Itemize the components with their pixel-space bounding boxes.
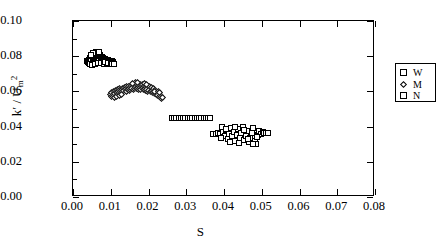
x-axis-title: S: [0, 224, 401, 240]
y-axis-minor-tick: [73, 39, 77, 40]
legend-item-n: N: [400, 90, 434, 101]
legend-label: N: [413, 90, 420, 101]
y-axis-title: k′ / Um2: [9, 41, 25, 151]
legend-marker-diamond: [400, 80, 407, 87]
x-axis-tick-label: 0.08: [351, 200, 397, 213]
x-axis-tick-top: [300, 21, 301, 27]
data-point-n: [265, 130, 271, 136]
y-axis-title-denominator: Um2: [9, 76, 24, 97]
y-axis-minor-tick: [73, 74, 77, 75]
y-axis-title-separator: /: [9, 97, 24, 107]
y-axis-tick-right: [367, 91, 373, 92]
x-axis-tick: [224, 189, 225, 195]
data-point-w: [111, 61, 117, 67]
chart-legend: WMN: [395, 63, 436, 102]
y-axis-tick-right: [367, 56, 373, 57]
data-point-n: [250, 141, 256, 147]
x-axis-tick-top: [111, 21, 112, 27]
x-axis-tick-top: [262, 21, 263, 27]
x-axis-tick: [300, 189, 301, 195]
y-axis-minor-tick: [73, 109, 77, 110]
data-point-n: [254, 134, 260, 140]
y-axis-tick-right: [367, 197, 373, 198]
plot-area: WMN: [72, 20, 374, 196]
y-axis-minor-tick: [73, 144, 77, 145]
legend-item-m: M: [400, 79, 434, 90]
legend-label: W: [413, 67, 422, 78]
y-axis-tick-right: [367, 21, 373, 22]
x-axis-tick: [186, 189, 187, 195]
data-point-n: [227, 139, 233, 145]
x-axis-tick: [337, 189, 338, 195]
x-axis-tick-top: [337, 21, 338, 27]
y-axis-tick: [73, 197, 79, 198]
legend-marker-square: [400, 92, 407, 99]
data-point-n: [241, 127, 247, 133]
legend-marker-square: [400, 69, 407, 76]
y-axis-tick: [73, 162, 79, 163]
data-point-w: [96, 49, 102, 55]
y-axis-tick-right: [367, 127, 373, 128]
data-point-n: [218, 135, 224, 141]
y-axis-tick: [73, 91, 79, 92]
x-axis-tick: [262, 189, 263, 195]
y-axis-tick: [73, 56, 79, 57]
x-axis-tick-top: [375, 21, 376, 27]
x-axis-tick: [375, 189, 376, 195]
x-axis-tick-top: [73, 21, 74, 27]
x-axis-tick-top: [149, 21, 150, 27]
data-point-n: [207, 115, 213, 121]
x-axis-tick-top: [224, 21, 225, 27]
x-axis-tick: [149, 189, 150, 195]
y-axis-minor-tick: [73, 179, 77, 180]
data-point-n: [232, 124, 238, 130]
x-axis-tick-top: [186, 21, 187, 27]
x-axis-tick: [73, 189, 74, 195]
y-axis-tick: [73, 127, 79, 128]
y-axis-title-symbol: k′: [9, 107, 24, 116]
y-axis-tick-right: [367, 162, 373, 163]
data-point-w: [88, 52, 94, 58]
data-point-n: [223, 126, 229, 132]
y-axis-tick-label: 0.10: [0, 14, 22, 27]
y-axis-tick-label: 0.00: [0, 190, 22, 203]
y-axis-tick-label: 0.02: [0, 155, 22, 168]
x-axis-tick: [111, 189, 112, 195]
data-point-n: [236, 140, 242, 146]
legend-label: M: [413, 79, 422, 90]
legend-item-w: W: [400, 67, 434, 78]
